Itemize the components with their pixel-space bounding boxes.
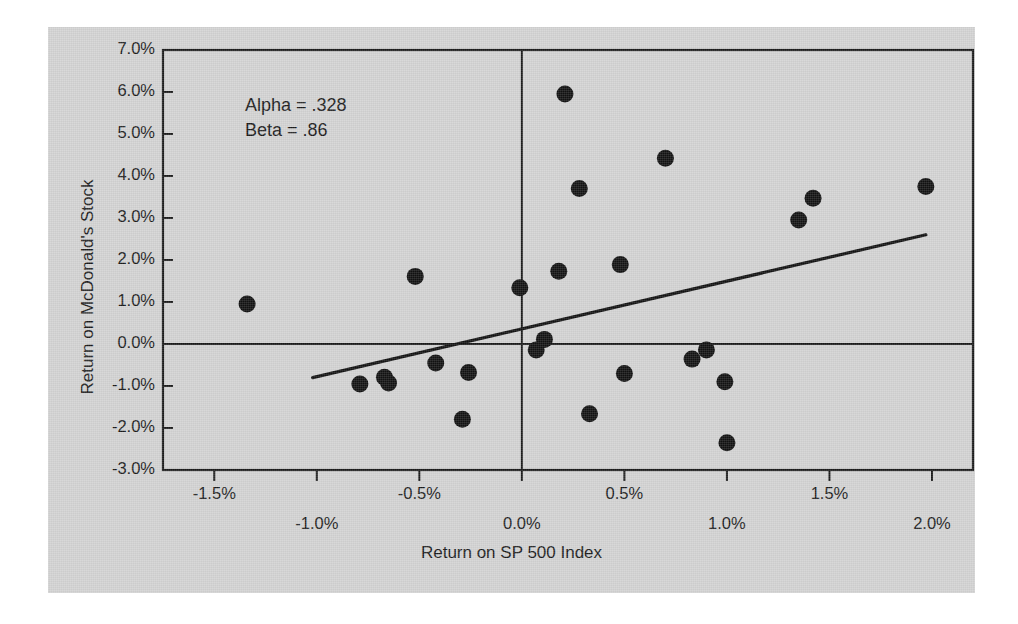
data-point [805,190,822,207]
data-point [556,86,573,103]
data-point [550,263,567,280]
data-point [684,351,701,368]
x-tick-label: -1.5% [174,484,254,503]
data-point [716,373,733,390]
x-tick-label: -1.0% [277,514,357,533]
annotation-beta: Beta = .86 [245,120,328,141]
data-point [790,212,807,229]
y-tick-label: -1.0% [81,375,155,394]
y-tick-label: 5.0% [81,123,155,142]
y-tick-label: -3.0% [81,459,155,478]
data-point [351,375,368,392]
data-point [718,434,735,451]
data-point [536,331,553,348]
data-point [239,296,256,313]
x-tick-label: 1.0% [687,514,767,533]
data-point [616,365,633,382]
annotation-alpha: Alpha = .328 [245,95,347,116]
data-point [571,180,588,197]
data-point [612,256,629,273]
data-point [581,405,598,422]
y-tick-label: 4.0% [81,165,155,184]
data-point [427,354,444,371]
scatter-plot [48,27,975,593]
data-point [407,268,424,285]
data-point [917,178,934,195]
x-tick-label: 0.5% [584,484,664,503]
x-tick-label: -0.5% [379,484,459,503]
data-points [239,86,935,452]
chart-figure: Alpha = .328 Beta = .86 Return on SP 500… [48,27,975,593]
x-tick-label: 1.5% [789,484,869,503]
tick-marks [163,92,932,481]
y-tick-label: 0.0% [81,333,155,352]
data-point [657,150,674,167]
y-tick-label: 7.0% [81,39,155,58]
data-point [380,375,397,392]
y-tick-label: -2.0% [81,417,155,436]
y-tick-label: 6.0% [81,81,155,100]
y-tick-label: 2.0% [81,249,155,268]
data-point [511,279,528,296]
x-tick-label: 0.0% [482,514,562,533]
data-point [698,341,715,358]
x-tick-label: 2.0% [892,514,972,533]
y-tick-label: 1.0% [81,291,155,310]
x-axis-title: Return on SP 500 Index [48,543,975,563]
data-point [460,364,477,381]
y-tick-label: 3.0% [81,207,155,226]
data-point [454,411,471,428]
